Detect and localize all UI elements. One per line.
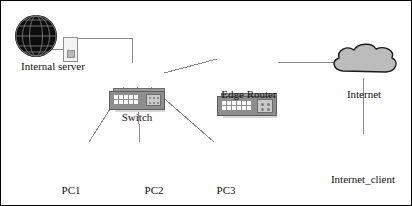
router-shadow bbox=[223, 116, 277, 118]
switch-ports bbox=[114, 95, 138, 104]
globe-grid-icon bbox=[15, 15, 57, 57]
pc2-label: PC2 bbox=[124, 184, 184, 196]
internet-client-label: Internet_client bbox=[315, 173, 411, 185]
internal-server-label: Internal server bbox=[7, 60, 99, 72]
link-switch-router bbox=[164, 59, 217, 73]
server-chip-icon bbox=[67, 50, 75, 58]
internal-server-box[interactable] bbox=[63, 37, 78, 62]
pc1-label: PC1 bbox=[41, 184, 101, 196]
switch-indicator-panel bbox=[146, 94, 161, 106]
globe-icon bbox=[15, 15, 57, 57]
internet-label: Internet bbox=[331, 88, 397, 100]
router-indicator-panel bbox=[257, 99, 273, 113]
network-diagram: Internal server Switch bbox=[0, 0, 412, 206]
edge-router-label: Edge Router bbox=[213, 88, 285, 100]
pc3-label: PC3 bbox=[196, 184, 256, 196]
internal-server-globe[interactable] bbox=[15, 15, 57, 57]
cloud-icon[interactable] bbox=[328, 41, 400, 79]
cloud-shape-icon bbox=[328, 41, 400, 79]
switch-label: Switch bbox=[105, 111, 169, 123]
router-ports bbox=[222, 101, 251, 110]
